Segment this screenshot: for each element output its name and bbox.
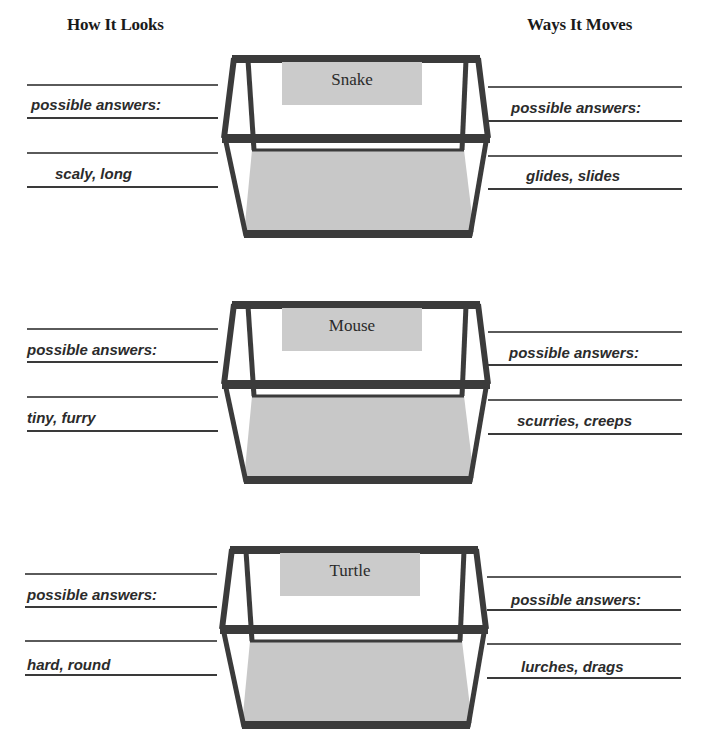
looks-answer: hard, round (27, 656, 110, 673)
blank-line[interactable] (25, 573, 217, 575)
blank-line[interactable] (487, 643, 681, 645)
blank-line[interactable] (27, 396, 218, 398)
animal-label: Mouse (282, 308, 422, 351)
animal-name: Mouse (282, 316, 422, 336)
tank-mouse: Mouse (218, 298, 494, 490)
looks-answer: tiny, furry (27, 409, 96, 426)
moves-prompt: possible answers: (509, 344, 639, 361)
blank-line[interactable] (488, 331, 682, 333)
answer-line[interactable] (488, 364, 682, 366)
moves-prompt: possible answers: (511, 591, 641, 608)
answer-line[interactable] (25, 674, 217, 676)
answer-line[interactable] (487, 677, 681, 679)
answer-line[interactable] (27, 361, 218, 363)
animal-name: Turtle (280, 561, 420, 581)
section-turtle: possible answers: hard, round possible a… (0, 0, 712, 200)
tank-turtle: Turtle (216, 543, 492, 735)
moves-answer: lurches, drags (521, 658, 624, 675)
moves-answer: scurries, creeps (517, 412, 632, 429)
looks-prompt: possible answers: (27, 586, 157, 603)
answer-line[interactable] (25, 606, 217, 608)
blank-line[interactable] (27, 328, 218, 330)
answer-line[interactable] (27, 430, 218, 432)
answer-line[interactable] (487, 609, 681, 611)
answer-line[interactable] (488, 433, 682, 435)
blank-line[interactable] (25, 640, 217, 642)
blank-line[interactable] (488, 399, 682, 401)
looks-prompt: possible answers: (27, 341, 157, 358)
blank-line[interactable] (487, 576, 681, 578)
animal-label: Turtle (280, 553, 420, 596)
